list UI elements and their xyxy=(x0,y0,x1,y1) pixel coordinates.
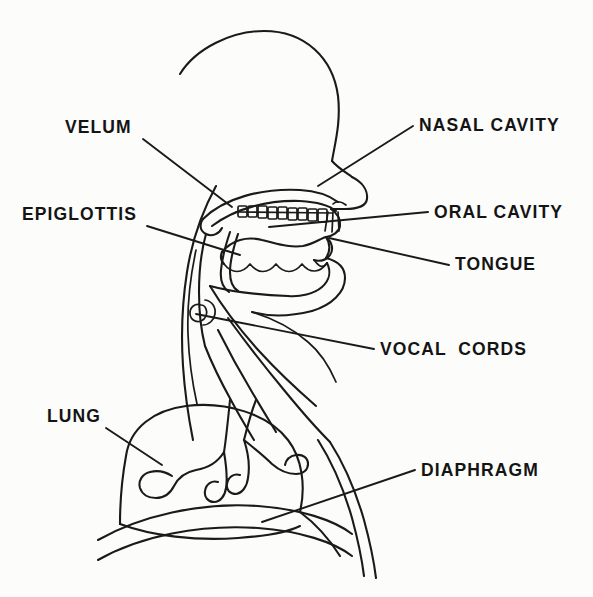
tooth-6 xyxy=(288,208,297,220)
leader-line-vocal-cords xyxy=(196,314,374,349)
vocal-cords-oval-inner xyxy=(203,300,215,325)
vocal-tract-illustration: VELUMEPIGLOTTISLUNGNASAL CAVITYORAL CAVI… xyxy=(0,0,593,597)
label-tongue: TONGUE xyxy=(455,254,536,274)
lower-jaw-floor xyxy=(210,286,288,296)
nose-outline xyxy=(331,177,367,209)
tongue-underside-scallop xyxy=(224,263,327,272)
tooth-7 xyxy=(298,208,307,220)
upper-teeth-row xyxy=(238,206,327,222)
torso-bottom-edge xyxy=(98,527,352,560)
torso-group xyxy=(98,440,376,578)
leader-line-velum xyxy=(143,139,232,207)
label-lung: LUNG xyxy=(47,406,101,426)
tooth-8 xyxy=(308,209,317,221)
pharynx-back-wall xyxy=(199,234,206,346)
label-diaphragm: DIAPHRAGM xyxy=(421,460,539,480)
epiglottis-flap xyxy=(221,232,230,292)
shoulder-line xyxy=(252,312,336,382)
pharynx-group xyxy=(190,232,316,406)
label-epiglottis: EPIGLOTTIS xyxy=(22,204,137,224)
label-vocal-cords: VOCAL CORDS xyxy=(380,339,527,359)
lung-bottom-edge xyxy=(120,524,300,539)
cranium-outline xyxy=(180,31,339,161)
anatomy-diagram: VELUMEPIGLOTTISLUNGNASAL CAVITYORAL CAVI… xyxy=(0,0,593,597)
torso-outer-edge xyxy=(330,442,376,578)
tongue-dorsum xyxy=(222,237,326,252)
nostril-icon xyxy=(333,202,346,205)
palate-group xyxy=(201,190,339,235)
label-velum: VELUM xyxy=(65,117,132,137)
label-nasal-cavity: NASAL CAVITY xyxy=(419,115,560,135)
leader-line-epiglottis xyxy=(147,226,240,255)
trachea-back-wall xyxy=(218,330,276,432)
neck-back-inner-outline xyxy=(188,250,197,404)
label-oral-cavity: ORAL CAVITY xyxy=(434,202,563,222)
tooth-9 xyxy=(318,209,327,222)
leader-line-tongue xyxy=(329,238,449,265)
lung-left-side xyxy=(120,456,126,524)
callout-label-layer: VELUMEPIGLOTTISLUNGNASAL CAVITYORAL CAVI… xyxy=(22,115,563,522)
